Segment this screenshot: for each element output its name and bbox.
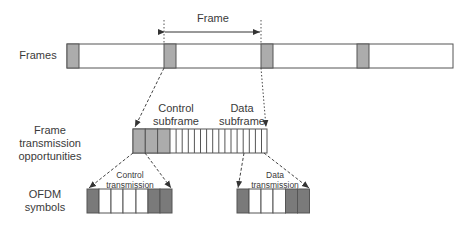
- frame-header-cell: [357, 44, 369, 68]
- data-transmission-label-line2: transmission: [242, 180, 308, 190]
- data-transmission-label: Data transmission: [242, 170, 308, 190]
- row-label-ofdm-line2: symbols: [20, 201, 70, 214]
- row-label-opportunities-line3: opportunities: [10, 150, 90, 163]
- row-label-ofdm: OFDM symbols: [20, 188, 70, 214]
- control-opportunity-cell: [158, 129, 170, 153]
- data-ofdm-symbols: [237, 189, 310, 213]
- control-subframe-label-line2: subframe: [146, 115, 206, 128]
- control-subframe-label: Control subframe: [146, 102, 206, 128]
- frame-span-label: Frame: [190, 12, 236, 25]
- frame-header-cell: [67, 44, 79, 68]
- control-transmission-label-line1: Control: [97, 170, 163, 180]
- data-subframe-label-line2: subframe: [212, 115, 272, 128]
- control-opportunity-cell: [145, 129, 157, 153]
- data-subframe-label: Data subframe: [212, 102, 272, 128]
- row-label-opportunities-line2: transmission: [10, 137, 90, 150]
- control-subframe-label-line1: Control: [146, 102, 206, 115]
- data-subframe-label-line1: Data: [212, 102, 272, 115]
- control-transmission-label: Control transmission: [97, 170, 163, 190]
- control-transmission-label-line2: transmission: [97, 180, 163, 190]
- row-label-frames: Frames: [16, 49, 60, 62]
- row-label-opportunities-line1: Frame: [10, 124, 90, 137]
- control-ofdm-symbols: [87, 189, 172, 213]
- control-opportunity-cell: [133, 129, 145, 153]
- row-label-ofdm-line1: OFDM: [20, 188, 70, 201]
- frame-header-cell: [164, 44, 176, 68]
- row-label-opportunities: Frame transmission opportunities: [10, 124, 90, 163]
- frame-header-cell: [261, 44, 273, 68]
- data-transmission-label-line1: Data: [242, 170, 308, 180]
- frames-row: [67, 44, 453, 68]
- transmission-opportunities-row: [133, 129, 267, 153]
